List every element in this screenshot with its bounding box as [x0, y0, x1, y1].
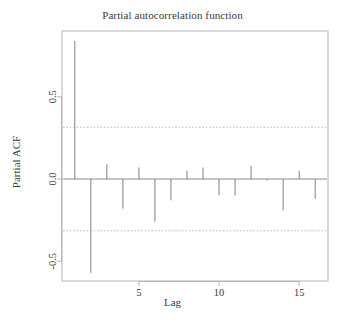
x-tick-label: 15: [294, 287, 305, 298]
plot-frame: [62, 31, 328, 281]
x-tick-label: 10: [214, 287, 225, 298]
y-tick-label: 0.5: [48, 90, 59, 103]
y-axis: -0.50.00.5: [48, 90, 62, 269]
x-tick-label: 5: [136, 287, 141, 298]
x-axis: 51015: [136, 282, 304, 299]
pacf-plot: Partial autocorrelation function Partial…: [0, 0, 345, 323]
y-tick-label: 0.0: [48, 172, 59, 185]
y-tick-label: -0.5: [48, 253, 59, 270]
frame-rect: [62, 31, 328, 281]
plot-canvas: -0.50.00.5 51015: [0, 0, 345, 323]
spike-series: [75, 41, 315, 273]
